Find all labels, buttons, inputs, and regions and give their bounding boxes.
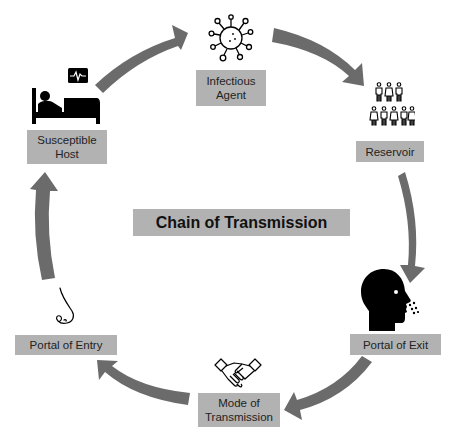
infectious-agent-line1: Infectious: [206, 74, 255, 88]
arrow-host-to-agent: [95, 25, 188, 93]
label-portal-of-exit: Portal of Exit: [350, 334, 441, 355]
susceptible-host-line1: Susceptible: [37, 133, 96, 147]
label-reservoir: Reservoir: [356, 141, 424, 162]
portal-of-entry-line1: Portal of Entry: [30, 338, 103, 352]
label-susceptible-host: Susceptible Host: [27, 130, 107, 164]
reservoir-line1: Reservoir: [365, 145, 414, 159]
nose-icon: [50, 287, 80, 327]
arrow-mode-to-entry: [97, 360, 190, 405]
portal-of-exit-line1: Portal of Exit: [363, 338, 428, 352]
susceptible-host-line2: Host: [37, 147, 96, 161]
virus-icon: [206, 12, 256, 64]
arrow-agent-to-reservoir: [272, 28, 364, 86]
label-mode-of-transmission: Mode of Transmission: [198, 393, 280, 427]
mode-of-transmission-line1: Mode of: [205, 396, 273, 410]
arrow-entry-to-host: [30, 172, 58, 280]
infectious-agent-line2: Agent: [206, 88, 255, 102]
chain-of-transmission-diagram: Infectious Agent Reservoir Portal: [0, 0, 453, 438]
arrow-reservoir-to-exit: [398, 172, 425, 283]
arrow-exit-to-mode: [284, 356, 372, 420]
people-group-icon: [369, 82, 415, 130]
heart-monitor-icon: [68, 68, 88, 83]
diagram-title: Chain of Transmission: [133, 209, 350, 236]
handshake-icon: [214, 357, 262, 391]
label-portal-of-entry: Portal of Entry: [15, 335, 117, 355]
label-infectious-agent: Infectious Agent: [196, 70, 266, 106]
diagram-title-text: Chain of Transmission: [156, 214, 328, 232]
head-exhale-icon: [359, 269, 419, 331]
mode-of-transmission-line2: Transmission: [205, 410, 273, 424]
patient-bed-icon: [30, 66, 106, 126]
